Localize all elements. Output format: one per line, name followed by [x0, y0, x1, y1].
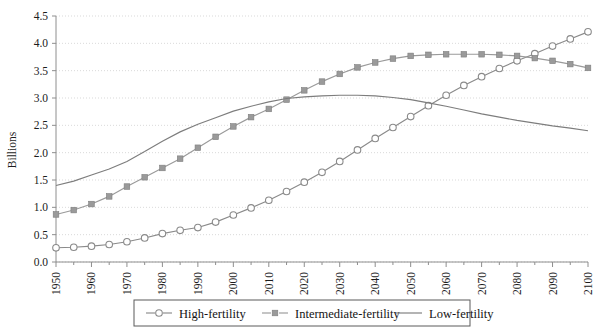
data-point-marker: [426, 52, 432, 58]
data-point-marker: [478, 73, 485, 80]
data-point-marker: [70, 244, 77, 251]
data-point-marker: [337, 71, 343, 77]
x-tick-label: 1950: [50, 272, 62, 295]
data-point-marker: [212, 219, 219, 226]
data-point-marker: [53, 212, 59, 218]
y-tick-label: 2.0: [34, 147, 49, 159]
y-axis-group: 0.00.51.01.52.02.53.03.54.04.5: [34, 10, 56, 268]
data-point-marker: [336, 158, 343, 165]
data-point-marker: [567, 36, 574, 43]
data-point-marker: [319, 79, 325, 85]
data-point-marker: [213, 134, 219, 140]
population-projection-chart: 0.00.51.01.52.02.53.03.54.04.5 195019601…: [0, 0, 596, 336]
x-tick-label: 1970: [121, 272, 133, 295]
y-tick-label: 4.0: [34, 37, 49, 49]
legend-marker-square-icon: [272, 310, 278, 316]
x-tick-label: 2040: [369, 272, 381, 295]
legend-item-label: Intermediate-fertility: [295, 307, 401, 321]
y-tick-label: 0.5: [34, 229, 49, 241]
x-tick-label: 1960: [85, 272, 97, 295]
legend-item-label: High-fertility: [179, 307, 246, 321]
data-point-marker: [532, 55, 538, 61]
data-point-marker: [124, 184, 130, 190]
legend: High-fertilityIntermediate-fertilityLow-…: [134, 300, 494, 326]
data-point-marker: [124, 238, 131, 245]
data-point-marker: [248, 114, 254, 120]
series-line: [56, 32, 588, 248]
x-tick-label: 2090: [547, 272, 559, 295]
data-point-marker: [142, 174, 148, 180]
x-tick-label: 2060: [440, 272, 452, 295]
series-high-fertility: [53, 29, 592, 252]
data-point-marker: [461, 51, 467, 57]
x-tick-label: 2100: [582, 272, 594, 295]
data-point-marker: [390, 124, 397, 131]
data-point-marker: [390, 56, 396, 62]
data-point-marker: [283, 188, 290, 195]
data-point-marker: [248, 205, 255, 212]
data-point-marker: [301, 179, 308, 186]
data-point-marker: [53, 244, 60, 251]
data-point-marker: [195, 224, 202, 231]
data-point-marker: [230, 212, 237, 219]
data-point-marker: [195, 145, 201, 151]
chart-canvas: 0.00.51.01.52.02.53.03.54.04.5 195019601…: [0, 0, 596, 336]
y-tick-label: 3.0: [34, 92, 49, 104]
series-line: [56, 54, 588, 214]
data-point-marker: [141, 235, 148, 242]
data-point-marker: [550, 58, 556, 64]
x-tick-label: 2030: [334, 272, 346, 295]
data-point-marker: [443, 92, 450, 99]
data-point-marker: [372, 135, 379, 142]
legend-marker-circle-icon: [156, 310, 163, 317]
data-point-marker: [231, 124, 237, 130]
data-point-marker: [497, 52, 503, 58]
data-point-marker: [443, 51, 449, 57]
data-point-marker: [266, 106, 272, 112]
y-tick-label: 2.5: [34, 119, 49, 131]
data-point-marker: [71, 207, 77, 213]
data-point-marker: [407, 113, 414, 120]
series-group: [53, 29, 592, 252]
data-point-marker: [372, 60, 378, 66]
x-tick-label: 2010: [263, 272, 275, 295]
series-intermediate-fertility: [53, 51, 591, 217]
data-point-marker: [89, 201, 95, 207]
data-point-marker: [266, 197, 273, 204]
data-point-marker: [159, 230, 166, 237]
data-point-marker: [301, 88, 307, 94]
x-tick-label: 1980: [156, 272, 168, 295]
x-tick-label: 2080: [511, 272, 523, 295]
gridlines-group: [56, 16, 588, 262]
data-point-marker: [177, 156, 183, 162]
x-tick-label: 2070: [476, 272, 488, 295]
x-tick-label: 2020: [298, 272, 310, 295]
data-point-marker: [496, 65, 503, 72]
data-point-marker: [585, 29, 592, 36]
data-point-marker: [106, 241, 113, 248]
y-axis-title: Billions: [6, 131, 18, 168]
data-point-marker: [514, 53, 520, 59]
y-tick-label: 3.5: [34, 65, 49, 77]
legend-item-label: Low-fertility: [429, 307, 494, 321]
y-tick-label: 0.0: [34, 256, 49, 268]
data-point-marker: [160, 165, 166, 171]
x-axis-group: 1950196019701980199020002010202020302040…: [50, 262, 594, 295]
data-point-marker: [319, 169, 326, 176]
data-point-marker: [354, 147, 361, 154]
data-point-marker: [408, 53, 414, 59]
data-point-marker: [549, 43, 556, 50]
data-point-marker: [177, 227, 184, 234]
data-point-marker: [585, 65, 591, 71]
y-tick-label: 1.0: [34, 201, 49, 213]
x-tick-label: 2050: [405, 272, 417, 295]
data-point-marker: [355, 65, 361, 71]
y-tick-label: 4.5: [34, 10, 49, 22]
x-tick-label: 2000: [227, 272, 239, 295]
data-point-marker: [461, 82, 468, 89]
data-point-marker: [88, 243, 95, 250]
data-point-marker: [567, 61, 573, 67]
x-tick-label: 1990: [192, 272, 204, 295]
data-point-marker: [106, 194, 112, 200]
y-tick-label: 1.5: [34, 174, 49, 186]
